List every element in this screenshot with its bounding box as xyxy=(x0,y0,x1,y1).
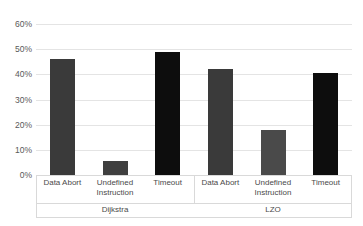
bar-dijkstra-data-abort xyxy=(50,59,75,175)
category-label-0: Data Abort xyxy=(36,178,89,188)
group-axis-rule xyxy=(36,203,352,204)
bar-chart: 60%50%40%30%20%10%0% Data AbortUndefined… xyxy=(0,0,363,226)
y-axis-tick-30: 30% xyxy=(0,95,32,105)
y-axis-tick-10: 10% xyxy=(0,145,32,155)
y-axis-tick-50: 50% xyxy=(0,44,32,54)
y-axis-labels: 60%50%40%30%20%10%0% xyxy=(0,24,32,175)
category-label-3: Data Abort xyxy=(194,178,247,188)
y-axis-tick-40: 40% xyxy=(0,69,32,79)
y-axis-tick-20: 20% xyxy=(0,120,32,130)
chart-title-cropped xyxy=(30,0,350,3)
category-label-5: Timeout xyxy=(299,178,352,188)
y-axis-tick-60: 60% xyxy=(0,19,32,29)
category-label-2: Timeout xyxy=(141,178,194,188)
bar-dijkstra-timeout xyxy=(155,52,180,175)
bar-lzo-data-abort xyxy=(208,69,233,175)
group-separator xyxy=(194,175,195,203)
bar-lzo-undefined-instruction xyxy=(261,130,286,175)
group-label-lzo: LZO xyxy=(194,205,352,214)
category-label-1: Undefined Instruction xyxy=(89,178,142,197)
bar-dijkstra-undefined-instruction xyxy=(103,161,128,175)
bars-layer xyxy=(36,24,352,175)
bar-lzo-timeout xyxy=(313,73,338,175)
group-label-dijkstra: Dijkstra xyxy=(36,205,194,214)
category-label-4: Undefined Instruction xyxy=(247,178,300,197)
y-axis-tick-0: 0% xyxy=(0,170,32,180)
